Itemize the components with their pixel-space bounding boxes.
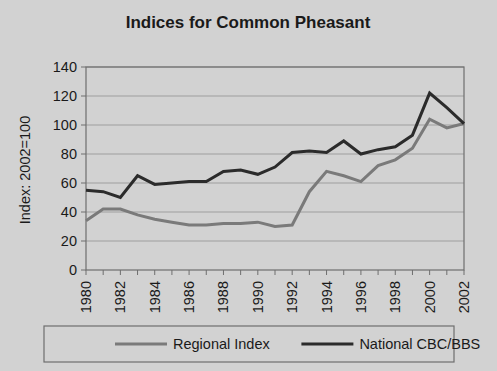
y-tick-label: 100 <box>53 117 77 133</box>
legend-label: Regional Index <box>173 336 270 352</box>
x-tick-label: 1994 <box>319 281 335 313</box>
x-tick-label: 1992 <box>284 281 300 313</box>
legend-label: National CBC/BBS <box>359 336 480 352</box>
x-tick-label: 2000 <box>422 281 438 313</box>
chart-title: Indices for Common Pheasant <box>126 13 371 32</box>
x-tick-label: 2002 <box>456 281 472 313</box>
x-tick-label: 1990 <box>250 281 266 313</box>
y-tick-label: 120 <box>53 88 77 104</box>
y-tick-label: 60 <box>61 175 77 191</box>
y-tick-label: 80 <box>61 146 77 162</box>
chart-figure: Indices for Common Pheasant Index: 2002=… <box>0 0 497 371</box>
y-tick-label: 40 <box>61 204 77 220</box>
x-tick-label: 1984 <box>147 281 163 313</box>
line-chart: Indices for Common Pheasant Index: 2002=… <box>0 0 497 371</box>
x-tick-label: 1986 <box>181 281 197 313</box>
y-tick-label: 20 <box>61 233 77 249</box>
x-tick-label: 1998 <box>387 281 403 313</box>
y-axis-label: Index: 2002=100 <box>17 116 33 224</box>
x-tick-label: 1996 <box>353 281 369 313</box>
x-tick-label: 1980 <box>78 281 94 313</box>
y-tick-label: 0 <box>69 262 77 278</box>
x-tick-label: 1982 <box>112 281 128 313</box>
y-tick-label: 140 <box>53 59 77 75</box>
x-tick-label: 1988 <box>215 281 231 313</box>
